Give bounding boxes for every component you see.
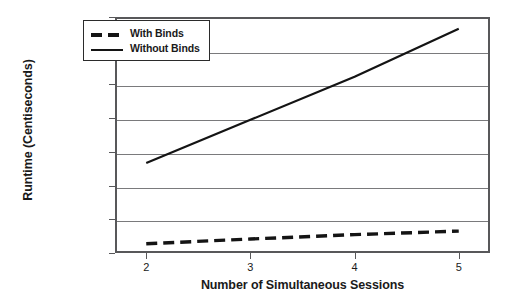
chart-figure: Runtime (Centiseconds) Number of Simulta…: [0, 0, 517, 305]
legend-item: With Binds: [91, 25, 200, 40]
legend-label: With Binds: [130, 27, 184, 39]
legend-swatch-dashed: [91, 27, 123, 39]
legend-swatch-solid: [91, 42, 123, 54]
series-layer: [0, 0, 517, 305]
legend-item: Without Binds: [91, 40, 200, 55]
series-line: [146, 231, 459, 244]
chart-legend: With BindsWithout Binds: [83, 20, 210, 61]
legend-label: Without Binds: [130, 42, 200, 54]
